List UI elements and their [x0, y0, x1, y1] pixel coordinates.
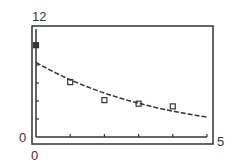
y-max-label: 12: [32, 9, 46, 24]
data-point: [102, 98, 107, 103]
data-point: [170, 104, 175, 109]
data-point: [34, 43, 39, 48]
x-max-label: 5: [217, 134, 224, 149]
data-points: [34, 43, 176, 109]
fit-curve: [36, 62, 207, 117]
chart: 12 0 0 5: [0, 0, 228, 168]
y-min-label: 0: [19, 130, 26, 145]
outer-frame: [32, 26, 213, 144]
x-min-label: 0: [31, 148, 38, 163]
